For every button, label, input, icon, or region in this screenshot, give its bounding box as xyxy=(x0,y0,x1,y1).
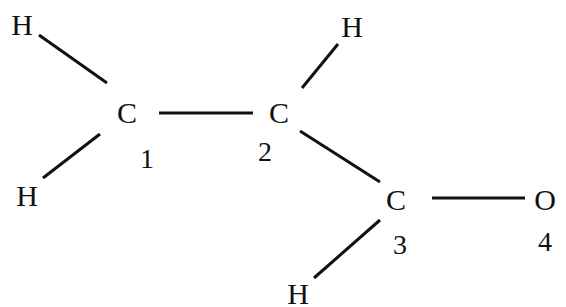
atom-c2: C xyxy=(269,98,289,128)
atom-h_top_left: H xyxy=(11,10,33,40)
atom-number-o4: 4 xyxy=(538,228,552,256)
atom-o4: O xyxy=(534,185,556,215)
atom-h_bottom_left: H xyxy=(16,181,38,211)
molecule-diagram: HC1C2HHC3O4H xyxy=(0,0,566,307)
atom-number-c3: 3 xyxy=(393,231,407,259)
bond-c2-h_top_right xyxy=(302,44,338,88)
atom-number-c2: 2 xyxy=(258,138,272,166)
atom-c3: C xyxy=(386,185,406,215)
bond-c3-h_bottom xyxy=(314,220,380,278)
bond-layer xyxy=(0,0,566,307)
bond-h_top_left-c1 xyxy=(39,35,107,83)
atom-number-c1: 1 xyxy=(140,145,154,173)
bond-c2-c3 xyxy=(300,131,380,182)
bond-c1-h_bottom_left xyxy=(43,134,100,178)
atom-c1: C xyxy=(117,98,137,128)
atom-h_bottom: H xyxy=(287,279,309,307)
atom-h_top_right: H xyxy=(341,12,363,42)
